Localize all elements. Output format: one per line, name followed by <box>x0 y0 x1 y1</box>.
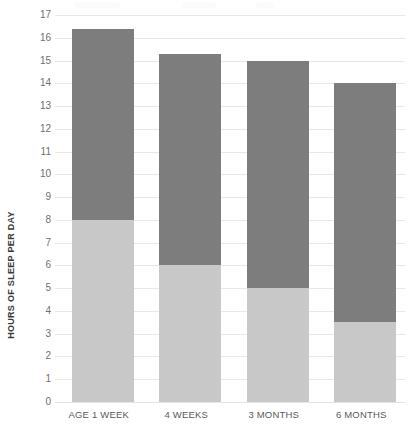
y-axis-title-label: HOURS OF SLEEP PER DAY <box>6 160 16 390</box>
y-axis-tick-label: 14 <box>25 78 51 88</box>
bar-segment-nighttime-sleep[interactable] <box>72 29 134 220</box>
y-axis-tick-label: 13 <box>25 101 51 111</box>
x-axis-category-label: AGE 1 WEEK <box>55 409 143 420</box>
bar-segment-nighttime-sleep[interactable] <box>247 61 309 289</box>
y-axis-tick-label: 7 <box>25 238 51 248</box>
x-axis-category-labels: AGE 1 WEEK4 WEEKS3 MONTHS6 MONTHS <box>55 409 405 429</box>
y-axis-tick-label: 11 <box>25 147 51 157</box>
bar-segment-daytime-sleep[interactable] <box>247 288 309 402</box>
stacked-bar-chart: HOURS OF SLEEP PER DAY 01234567891011121… <box>0 0 411 443</box>
bar-segment-daytime-sleep[interactable] <box>334 322 396 402</box>
y-axis-tick-label: 16 <box>25 33 51 43</box>
bar-segment-daytime-sleep[interactable] <box>72 220 134 402</box>
y-axis-title: HOURS OF SLEEP PER DAY <box>0 0 18 443</box>
y-axis-tick-label: 5 <box>25 283 51 293</box>
y-axis-tick-label: 3 <box>25 329 51 339</box>
plot-area <box>55 15 405 402</box>
bar-segment-nighttime-sleep[interactable] <box>159 54 221 266</box>
bar-segment-daytime-sleep[interactable] <box>159 265 221 402</box>
y-axis-tick-label: 2 <box>25 351 51 361</box>
bar-segment-nighttime-sleep[interactable] <box>334 83 396 322</box>
gridline <box>55 15 405 16</box>
y-axis-tick-label: 8 <box>25 215 51 225</box>
y-axis-tick-label: 0 <box>25 397 51 407</box>
y-axis-tick-label: 9 <box>25 192 51 202</box>
bar-group[interactable] <box>159 54 221 402</box>
y-axis-tick-label: 1 <box>25 374 51 384</box>
y-axis-tick-label: 4 <box>25 306 51 316</box>
x-axis-category-label: 6 MONTHS <box>318 409 406 420</box>
bar-group[interactable] <box>334 83 396 402</box>
y-axis-tick-label: 10 <box>25 169 51 179</box>
y-axis-tick-label: 6 <box>25 260 51 270</box>
y-axis-tick-label: 12 <box>25 124 51 134</box>
bar-group[interactable] <box>247 61 309 402</box>
y-axis-tick-label: 15 <box>25 56 51 66</box>
y-axis-tick-label: 17 <box>25 10 51 20</box>
x-axis-category-label: 3 MONTHS <box>230 409 318 420</box>
x-axis-category-label: 4 WEEKS <box>143 409 231 420</box>
cropped-top-strip <box>0 0 411 9</box>
y-axis-tick-labels: 01234567891011121314151617 <box>19 15 51 402</box>
bar-group[interactable] <box>72 29 134 402</box>
gridline <box>55 402 405 403</box>
